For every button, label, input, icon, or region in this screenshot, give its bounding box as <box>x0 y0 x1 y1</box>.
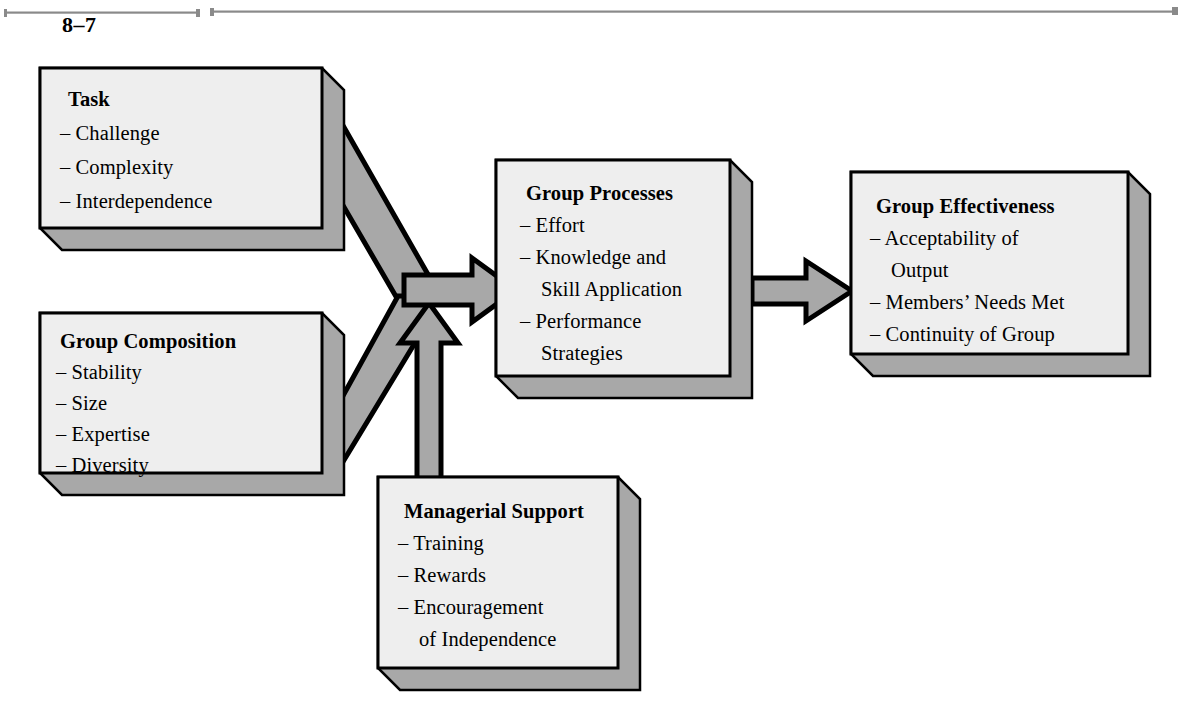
task-box-item-0: – Challenge <box>59 122 160 145</box>
managerial-support-box-item-2: – Encouragement <box>397 596 544 619</box>
group-processes-box-item-3: – Performance <box>519 310 641 332</box>
group-composition-box-item-3: – Diversity <box>55 454 149 477</box>
box-managerial-support: Managerial Support – Training – Rewards … <box>378 477 640 690</box>
box-group-composition: Group Composition – Stability – Size – E… <box>40 313 344 495</box>
group-composition-box-item-2: – Expertise <box>55 423 150 446</box>
rule-right-terminal <box>1172 7 1178 15</box>
group-processes-box-item-2: Skill Application <box>541 278 682 301</box>
group-effectiveness-box-item-2: – Members’ Needs Met <box>869 291 1065 313</box>
box-task: Task – Challenge – Complexity – Interdep… <box>40 68 344 250</box>
figure-root: Task – Challenge – Complexity – Interdep… <box>0 0 1189 719</box>
managerial-support-box-item-0: – Training <box>397 532 484 555</box>
arrow-processes-to-effectiveness <box>752 261 852 321</box>
group-effectiveness-box-item-0: – Acceptability of <box>869 227 1019 250</box>
managerial-support-box-title: Managerial Support <box>404 500 584 523</box>
task-box-item-2: – Interdependence <box>59 190 213 213</box>
group-processes-box-item-4: Strategies <box>541 342 623 365</box>
managerial-support-box-item-1: – Rewards <box>397 564 486 586</box>
group-composition-box-item-1: – Size <box>55 392 107 414</box>
group-processes-box-item-0: – Effort <box>519 214 585 236</box>
group-composition-box-item-0: – Stability <box>55 361 143 384</box>
task-box-title: Task <box>68 88 110 110</box>
group-processes-box-title: Group Processes <box>526 182 673 205</box>
box-group-effectiveness: Group Effectiveness – Acceptability of O… <box>851 172 1150 376</box>
managerial-support-box-item-3: of Independence <box>419 628 557 651</box>
rule-right-segment <box>212 11 1175 13</box>
group-effectiveness-box-item-1: Output <box>891 259 949 282</box>
diagram-canvas: Task – Challenge – Complexity – Interdep… <box>0 0 1189 719</box>
header-rule <box>4 7 1178 17</box>
group-effectiveness-box-item-3: – Continuity of Group <box>869 323 1055 346</box>
task-box-item-1: – Complexity <box>59 156 174 179</box>
group-effectiveness-box-title: Group Effectiveness <box>876 195 1055 218</box>
figure-number: 8–7 <box>62 12 97 37</box>
box-group-processes: Group Processes – Effort – Knowledge and… <box>496 160 752 398</box>
group-composition-box-title: Group Composition <box>60 330 237 353</box>
rule-left-segment <box>5 12 199 14</box>
group-processes-box-item-1: – Knowledge and <box>519 246 666 269</box>
rule-left-end-terminal <box>196 9 200 17</box>
